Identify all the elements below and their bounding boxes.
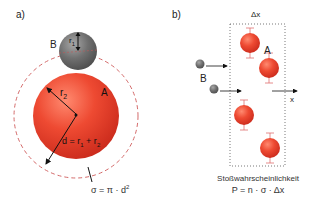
particle-b-label: B (200, 74, 207, 84)
collision-probability-title: Stoßwahrscheinlichkeit (200, 174, 312, 184)
panel-b-label: b) (172, 10, 181, 20)
panel-a (14, 32, 138, 182)
particle-b-1 (196, 60, 205, 69)
particle-a-label: A (264, 46, 271, 56)
cross-section-formula: σ = π · d2 (91, 182, 129, 195)
box-width-label: Δx (251, 10, 260, 20)
particle-b-2 (210, 85, 219, 94)
panel-a-label: a) (16, 10, 25, 20)
radius-r1-label: r1 (69, 36, 75, 49)
particle-a-2 (259, 53, 279, 83)
panel-b (196, 24, 298, 166)
particle-a-1 (240, 28, 260, 58)
distance-d-label: d = r1 + r2 (62, 136, 100, 150)
sphere-a-label: A (101, 88, 108, 98)
radius-r2-label: r2 (60, 88, 67, 102)
collision-probability-formula: P = n · σ · Δx (200, 185, 312, 195)
x-axis-label: x (290, 95, 294, 105)
particle-a-4 (260, 133, 280, 163)
particle-a-3 (234, 100, 254, 130)
sphere-b-label: B (50, 40, 57, 50)
